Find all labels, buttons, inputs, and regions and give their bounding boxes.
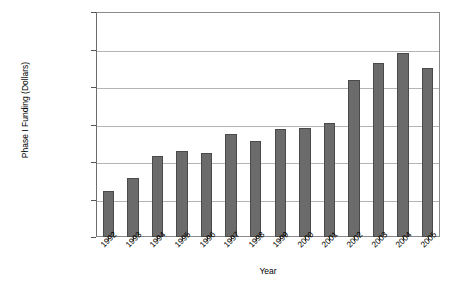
bar xyxy=(397,53,408,237)
bar-chart: Phase I Funding (Dollars) 0100,000,00020… xyxy=(0,0,450,281)
bar xyxy=(152,156,163,237)
y-axis-title: Phase I Funding (Dollars) xyxy=(20,30,30,190)
y-tick-mark xyxy=(91,12,96,13)
bar xyxy=(127,178,138,237)
bar xyxy=(225,134,236,238)
bar xyxy=(324,123,335,237)
bar xyxy=(299,128,310,237)
bar xyxy=(176,151,187,237)
x-axis-title: Year xyxy=(96,266,440,276)
y-tick-mark xyxy=(91,200,96,201)
bar xyxy=(275,129,286,237)
y-tick-mark xyxy=(91,162,96,163)
bar xyxy=(422,68,433,237)
bar xyxy=(348,80,359,238)
y-tick-mark xyxy=(91,87,96,88)
bar xyxy=(250,141,261,237)
bar xyxy=(201,153,212,237)
y-tick-mark xyxy=(91,237,96,238)
bar xyxy=(373,63,384,237)
bars-layer xyxy=(96,12,440,237)
y-tick-mark xyxy=(91,125,96,126)
y-tick-mark xyxy=(91,50,96,51)
